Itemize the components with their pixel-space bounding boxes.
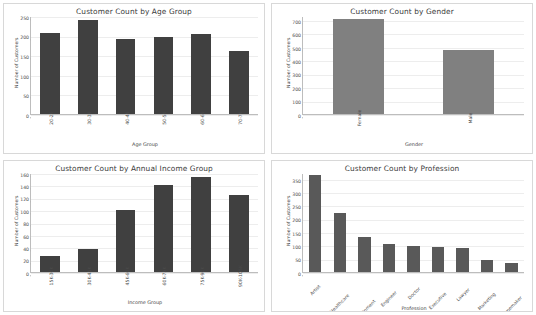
x-axis-tick-label: 15K-30K (50, 267, 55, 286)
bar-marketing[interactable] (481, 260, 493, 273)
bar-series (31, 17, 258, 114)
y-axis-tick-label: 100 (20, 211, 29, 216)
x-axis-tick: 75K-90K (182, 274, 220, 275)
income-group-plot-area: 02040608010012014016015K-30K30K-45K45K-6… (30, 174, 258, 273)
x-axis-tick-label: 70-79 (239, 111, 244, 124)
bar-70-79[interactable] (229, 51, 249, 115)
bar-60-69[interactable] (191, 34, 211, 114)
y-axis-tick-label: 500 (292, 48, 301, 53)
x-axis-title: Profession (303, 305, 525, 311)
x-axis-tick-label: 50-59 (163, 111, 168, 124)
x-axis-tick: 45K-60K (107, 274, 145, 275)
bar-entertainment[interactable] (358, 237, 370, 272)
bar-executive[interactable] (432, 247, 444, 272)
x-axis-tick: Executive (426, 274, 451, 275)
bar-artist[interactable] (309, 175, 321, 272)
bar-20-29[interactable] (40, 33, 60, 114)
bar-40-49[interactable] (116, 39, 136, 114)
y-axis-title: Number of Customers (286, 37, 291, 88)
x-axis-title: Gender (303, 141, 525, 147)
x-axis-tick-label: Lawyer (456, 288, 471, 303)
x-axis-tick-label: Male (469, 113, 474, 124)
x-axis-title: Income Group (31, 299, 259, 305)
x-axis-tick-label: 60-69 (201, 111, 206, 124)
x-axis-tick-label: 90K-105K (239, 265, 244, 287)
x-axis-tick: 50-59 (144, 116, 182, 117)
bar-90k-105k[interactable] (229, 195, 249, 272)
y-axis-tick-label: 350 (292, 180, 301, 185)
bar-60k-75k[interactable] (154, 185, 174, 272)
x-axis-tick: Healthcare (328, 274, 353, 275)
y-axis-tick-label: 150 (292, 233, 301, 238)
x-axis-tick: Male (414, 116, 525, 117)
profession-chart-title: Customer Count by Profession (272, 164, 532, 173)
x-axis-tick: Doctor (401, 274, 426, 275)
x-axis-tick: 40-49 (107, 116, 145, 117)
bar-30-39[interactable] (78, 20, 98, 114)
x-axis-tick: Female (303, 116, 414, 117)
y-axis-tick-label: 50 (23, 95, 29, 100)
x-axis-tick-label: 30-39 (88, 111, 93, 124)
age-group-chart-title: Customer Count by Age Group (4, 7, 264, 16)
x-axis-tick-labels: ArtistHealthcareEntertainmentEngineerDoc… (303, 274, 524, 275)
y-axis-tick-label: 50 (295, 260, 301, 265)
gender-chart-title: Customer Count by Gender (272, 7, 532, 16)
y-axis-tick-label: 600 (292, 34, 301, 39)
x-axis-tick: Artist (303, 274, 328, 275)
y-axis-title: Number of Customers (14, 195, 19, 246)
y-axis-title: Number of Customers (286, 195, 291, 246)
bar-healthcare[interactable] (334, 213, 346, 272)
bar-engineer[interactable] (383, 244, 395, 272)
x-axis-tick-label: 75K-90K (201, 267, 206, 286)
profession-chart-panel: Customer Count by Profession 05010015020… (271, 160, 533, 312)
y-axis-tick-label: 140 (20, 186, 29, 191)
bar-male[interactable] (443, 50, 494, 114)
x-axis-tick: 60-69 (182, 116, 220, 117)
bar-75k-90k[interactable] (191, 177, 211, 272)
y-axis-tick-label: 150 (20, 56, 29, 61)
x-axis-tick-label: Doctor (407, 287, 421, 301)
y-axis-tick-label: 300 (292, 193, 301, 198)
x-axis-tick-labels: 20-2930-3940-4950-5960-6970-79 (31, 116, 258, 117)
x-axis-tick: 30K-45K (69, 274, 107, 275)
x-axis-tick: 90K-105K (220, 274, 258, 275)
y-axis-tick-label: 0 (298, 115, 301, 120)
x-axis-tick: Marketing (475, 274, 500, 275)
x-axis-tick: 15K-30K (31, 274, 69, 275)
y-axis-tick-label: 100 (20, 76, 29, 81)
x-axis-tick-labels: FemaleMale (303, 116, 524, 117)
charts-dashboard: Customer Count by Age Group 050100150200… (0, 0, 536, 315)
age-group-chart-panel: Customer Count by Age Group 050100150200… (3, 3, 265, 154)
income-group-chart-panel: Customer Count by Annual Income Group 02… (3, 160, 265, 312)
bar-series (303, 174, 524, 272)
y-axis-tick-label: 40 (23, 248, 29, 253)
age-group-plot-area: 05010015020025020-2930-3940-4950-5960-69… (30, 17, 258, 115)
y-axis-tick-label: 0 (26, 273, 29, 278)
x-axis-tick: 70-79 (220, 116, 258, 117)
y-axis-tick-label: 100 (292, 102, 301, 107)
x-axis-tick-label: 60K-75K (163, 267, 168, 286)
y-axis-tick-label: 700 (292, 21, 301, 26)
bar-female[interactable] (333, 19, 384, 114)
y-axis-tick-label: 20 (23, 261, 29, 266)
bar-lawyer[interactable] (456, 248, 468, 272)
y-axis-title: Number of Customers (14, 37, 19, 88)
y-axis-tick-label: 0 (298, 273, 301, 278)
y-axis-tick-label: 200 (20, 37, 29, 42)
y-axis-tick-label: 250 (292, 206, 301, 211)
gender-chart-panel: Customer Count by Gender 010020030040050… (271, 3, 533, 154)
x-axis-tick-label: 30K-45K (88, 267, 93, 286)
bar-homemaker[interactable] (505, 263, 517, 272)
x-axis-tick: Entertainment (352, 274, 377, 275)
y-axis-tick-label: 250 (20, 17, 29, 22)
x-axis-tick: 60K-75K (144, 274, 182, 275)
x-axis-tick: Lawyer (450, 274, 475, 275)
x-axis-title: Age Group (31, 141, 259, 147)
bar-series (31, 174, 258, 272)
bar-doctor[interactable] (407, 246, 419, 272)
y-axis-tick-label: 100 (292, 246, 301, 251)
bar-45k-60k[interactable] (116, 210, 136, 272)
y-axis-tick-label: 160 (20, 174, 29, 179)
x-axis-tick-label: 40-49 (126, 111, 131, 124)
bar-50-59[interactable] (154, 37, 174, 114)
